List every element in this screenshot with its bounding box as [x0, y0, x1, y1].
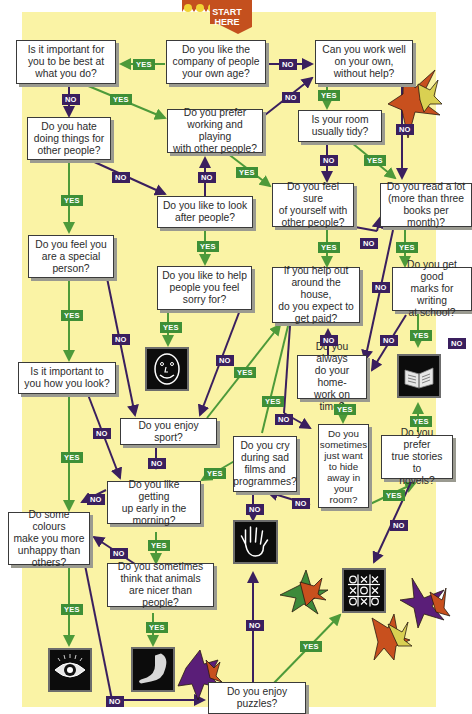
yes-tag: YES	[61, 604, 83, 615]
question-cry-sad-films[interactable]: Do you cry during sad films and programm…	[233, 436, 297, 492]
yes-tag: YES	[61, 310, 83, 321]
question-special-person[interactable]: Do you feel you are a special person?	[28, 235, 114, 278]
no-tag: NO	[106, 696, 124, 707]
no-tag: NO	[320, 335, 338, 346]
no-tag: NO	[380, 335, 398, 346]
question-animals-nicer[interactable]: Do you sometimes think that animals are …	[107, 563, 214, 607]
yes-tag: YES	[318, 242, 340, 253]
start-here-label: START HERE	[205, 7, 249, 27]
no-tag: NO	[390, 520, 408, 531]
no-tag: NO	[62, 94, 80, 105]
question-enjoy-sport[interactable]: Do you enjoy sport?	[120, 418, 217, 445]
no-tag: NO	[282, 92, 300, 103]
no-tag: NO	[396, 124, 414, 135]
result-arm[interactable]	[131, 647, 175, 692]
yes-tag: YES	[204, 468, 226, 479]
yes-tag: YES	[133, 59, 155, 70]
yes-tag: YES	[383, 490, 405, 501]
no-tag: NO	[246, 620, 264, 631]
no-tag: NO	[198, 172, 216, 183]
question-read-a-lot[interactable]: Do you read a lot (more than three books…	[380, 183, 472, 227]
question-hide-away[interactable]: Do you sometimes just want to hide away …	[318, 424, 369, 508]
result-smiley-face[interactable]	[145, 347, 189, 391]
question-best-at-what-you-do[interactable]: Is it important for you to be best at wh…	[16, 40, 116, 84]
yes-tag: YES	[197, 241, 219, 252]
no-tag: NO	[279, 59, 297, 70]
question-hate-doing-things[interactable]: Do you hate doing things for other peopl…	[27, 117, 111, 160]
result-open-book[interactable]	[397, 354, 441, 398]
no-tag: NO	[112, 172, 130, 183]
no-tag: NO	[372, 282, 390, 293]
smiley-face-icon	[147, 349, 187, 389]
yes-tag: YES	[262, 396, 284, 407]
yes-tag: YES	[318, 90, 340, 101]
hand-icon	[235, 522, 276, 562]
question-expect-paid[interactable]: If you help out around the house, do you…	[272, 267, 360, 323]
no-tag: NO	[216, 355, 234, 366]
question-prefer-working-with-others[interactable]: Do you prefer working and playing with o…	[167, 109, 263, 153]
no-tag: NO	[87, 494, 105, 505]
eye-icon	[50, 650, 90, 690]
yes-tag: YES	[410, 416, 432, 427]
result-eye[interactable]	[48, 648, 92, 692]
yes-tag: YES	[110, 94, 132, 105]
yes-tag: YES	[236, 167, 258, 178]
yes-tag: YES	[148, 540, 170, 551]
question-true-stories[interactable]: Do you prefer true stories to novels?	[381, 435, 453, 479]
tic-tac-toe-icon	[344, 570, 384, 611]
question-room-tidy[interactable]: Is your room usually tidy?	[298, 110, 382, 142]
question-enjoy-puzzles[interactable]: Do you enjoy puzzles?	[208, 682, 306, 714]
question-work-alone[interactable]: Can you work well on your own, without h…	[315, 40, 413, 84]
yes-tag: YES	[334, 404, 356, 415]
no-tag: NO	[93, 428, 111, 439]
no-tag: NO	[292, 498, 310, 509]
arm-icon	[133, 649, 173, 690]
yes-tag: YES	[146, 622, 168, 633]
yes-tag: YES	[410, 330, 432, 341]
no-tag: NO	[275, 414, 293, 425]
no-tag: NO	[110, 548, 128, 559]
yes-tag: YES	[61, 195, 83, 206]
question-look-after-people[interactable]: Do you like to look after people?	[157, 196, 253, 228]
yes-tag: YES	[234, 367, 256, 378]
no-tag: NO	[246, 504, 264, 515]
no-tag: NO	[360, 238, 378, 249]
question-feel-sure[interactable]: Do you feel sure of yourself with other …	[272, 183, 354, 227]
no-tag: NO	[448, 338, 466, 349]
question-how-you-look[interactable]: Is it important to you how you look?	[18, 362, 116, 394]
question-help-people-sorry[interactable]: Do you like to help people you feel sorr…	[157, 266, 252, 310]
open-book-icon	[399, 356, 439, 396]
no-tag: NO	[112, 334, 130, 345]
question-good-marks-writing[interactable]: Do you get good marks for writing at sch…	[392, 267, 472, 311]
yes-tag: YES	[396, 242, 418, 253]
question-getting-up-early[interactable]: Do you like getting up early in the morn…	[107, 481, 201, 524]
question-homework-on-time[interactable]: Do you always do your home- work on time…	[297, 355, 367, 399]
yes-tag: YES	[61, 452, 83, 463]
result-hand[interactable]	[233, 520, 278, 564]
question-company-age[interactable]: Do you like the company of people your o…	[166, 40, 266, 84]
yes-tag: YES	[300, 641, 322, 652]
no-tag: NO	[320, 155, 338, 166]
result-tic-tac-toe[interactable]	[342, 568, 386, 613]
yes-tag: YES	[160, 322, 182, 333]
question-colours-unhappy[interactable]: Do some colours make you more unhappy th…	[8, 512, 90, 565]
no-tag: NO	[148, 458, 166, 469]
yes-tag: YES	[364, 155, 386, 166]
